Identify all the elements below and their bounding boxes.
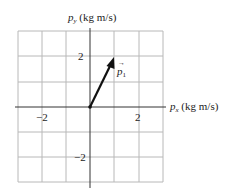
y-tick-neg2: −2	[74, 152, 86, 163]
vector-p1	[88, 57, 114, 109]
x-axis-subscript: x	[176, 106, 179, 114]
x-axis-unit: (kg m/s)	[181, 100, 218, 112]
y-tick-2: 2	[78, 51, 84, 62]
y-axis-label: py (kg m/s)	[68, 12, 116, 25]
vector-arrow-icon: →	[118, 60, 125, 67]
arrowhead-icon	[107, 57, 115, 69]
y-axis-subscript: y	[74, 17, 77, 25]
vector-label: → p 1	[117, 66, 126, 79]
x-axis-label: px (kg m/s)	[170, 101, 218, 114]
x-tick-2: 2	[135, 112, 141, 123]
vector-subscript: 1	[123, 71, 127, 79]
momentum-diagram	[0, 0, 228, 190]
x-tick-neg2: −2	[36, 112, 48, 123]
y-axis-unit: (kg m/s)	[79, 11, 116, 23]
